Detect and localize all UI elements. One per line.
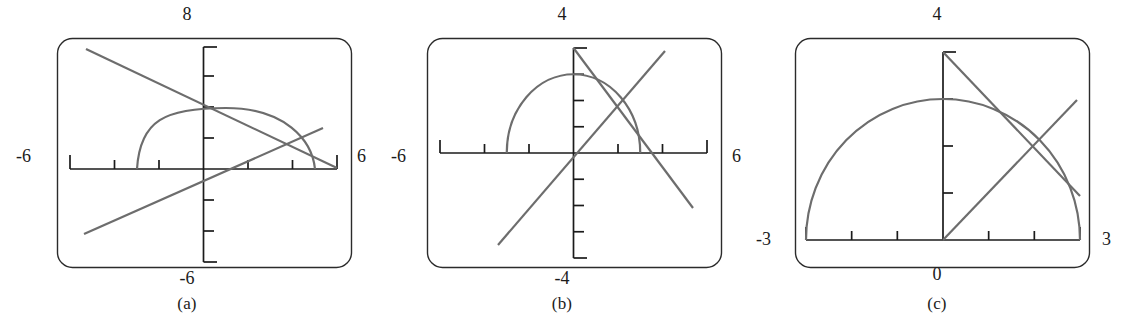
panel-b-top-label: 4 [375, 4, 749, 25]
figure-three-viewing-windows: 8 -6 6 -6 [0, 0, 1124, 330]
panel-c-top-label: 4 [750, 4, 1124, 25]
panel-b-left-label: -6 [391, 146, 406, 167]
panel-c-y-ticks [943, 52, 956, 193]
panel-c-bottom-label: 0 [750, 264, 1124, 285]
panel-a-left-label: -6 [16, 146, 31, 167]
panel-b-bottom-label: -4 [375, 268, 749, 289]
panel-b-decreasing-line [574, 48, 694, 208]
panel-c-decreasing-line [943, 52, 1080, 196]
panel-a-semicircle-arc [137, 108, 315, 169]
panel-b: 4 -6 6 -4 [375, 0, 749, 330]
panel-a: 8 -6 6 -6 [0, 0, 374, 330]
panel-c-right-label: 3 [1102, 229, 1111, 250]
panel-b-caption: (b) [375, 294, 749, 314]
panel-c-left-label: -3 [756, 229, 771, 250]
panel-a-y-ticks [204, 47, 218, 262]
panel-a-bottom-label: -6 [0, 268, 374, 289]
panel-b-right-label: 6 [732, 146, 741, 167]
panel-a-top-label: 8 [0, 4, 374, 25]
panel-a-right-label: 6 [357, 146, 366, 167]
panel-c-caption: (c) [750, 294, 1124, 314]
panel-a-caption: (a) [0, 294, 374, 314]
panel-c: 4 -3 3 0 [750, 0, 1124, 330]
